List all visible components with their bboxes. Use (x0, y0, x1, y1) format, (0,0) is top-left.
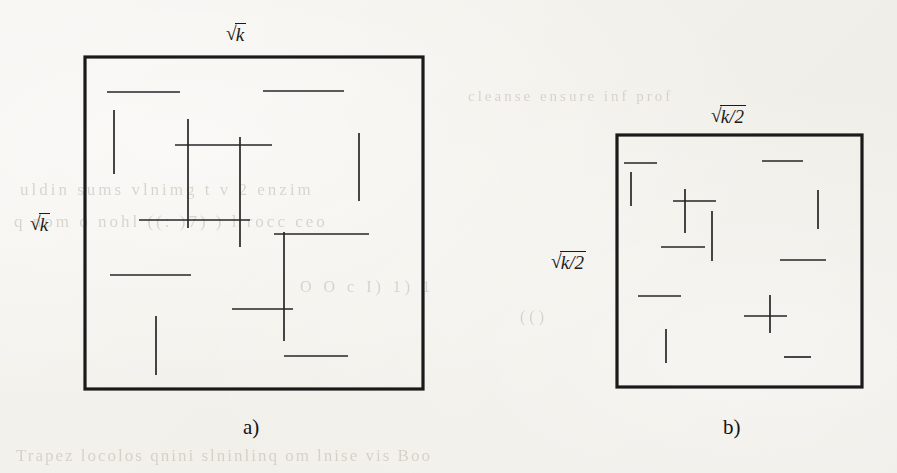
panel-a-left-label: √k (30, 212, 50, 235)
radicand: k (39, 213, 50, 236)
figure-layer: cleanse ensure inf profuldin sums vlnimg… (0, 0, 897, 473)
panel-a-segment-group (107, 91, 369, 375)
panel-a-border (85, 57, 423, 389)
radical-expression: √k/2 (711, 104, 746, 127)
panel-b-border (617, 135, 862, 387)
radical-expression: √k (226, 22, 246, 45)
panel-b-box (617, 135, 862, 387)
panel-b-top-label: √k/2 (711, 104, 746, 127)
radicand: k/2 (560, 251, 586, 274)
panel-b-caption: b) (723, 415, 741, 440)
panel-a-box (85, 57, 423, 389)
panel-b-left-label: √k/2 (551, 250, 586, 273)
radicand: k/2 (720, 105, 746, 128)
radicand: k (235, 23, 246, 46)
panel-a-caption: a) (243, 415, 259, 440)
panel-b-segment-group (624, 161, 826, 363)
radical-expression: √k (30, 212, 50, 235)
radical-expression: √k/2 (551, 250, 586, 273)
panel-a-top-label: √k (226, 22, 246, 45)
figure-svg (0, 0, 897, 473)
